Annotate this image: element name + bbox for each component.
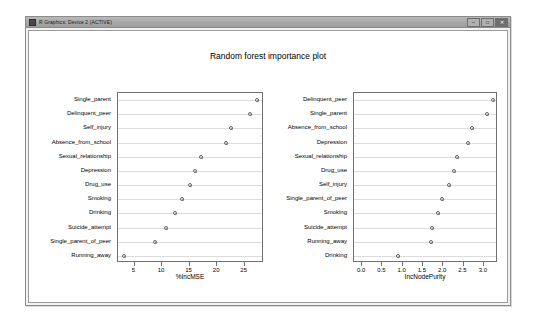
- y-axis-tick-label: Smoking: [88, 195, 111, 201]
- importance-plot-incmse: Single_parentDelinquent_peerSelf_injuryA…: [32, 78, 266, 298]
- plot-title: Random forest importance plot: [29, 51, 507, 61]
- y-axis-tick-label: Smoking: [324, 209, 347, 215]
- data-point: [491, 98, 495, 102]
- data-point: [173, 211, 177, 215]
- x-axis-tick: [402, 262, 403, 266]
- data-point: [199, 155, 203, 159]
- data-point: [466, 141, 470, 145]
- y-axis-tick-label: Running_away: [307, 238, 347, 244]
- data-point: [193, 169, 197, 173]
- window-controls: – □ ✕: [467, 18, 508, 27]
- y-axis-tick-label: Depression: [317, 139, 347, 145]
- window-titlebar[interactable]: R Graphics: Device 2 (ACTIVE) – □ ✕: [26, 17, 510, 28]
- data-point: [455, 155, 459, 159]
- x-axis-tick-label: 0.0: [357, 267, 365, 273]
- y-axis-tick-label: Single_parent: [74, 96, 111, 102]
- data-point: [153, 240, 157, 244]
- r-graphics-window: R Graphics: Device 2 (ACTIVE) – □ ✕ Rand…: [25, 16, 511, 306]
- y-axis-tick-label: Depression: [81, 167, 111, 173]
- x-axis-tick: [134, 262, 135, 266]
- y-axis-tick-label: Delinquent_peer: [67, 110, 111, 116]
- x-axis-tick: [244, 262, 245, 266]
- data-point: [224, 141, 228, 145]
- data-point: [255, 98, 259, 102]
- y-axis-labels-left: Single_parentDelinquent_peerSelf_injuryA…: [32, 92, 114, 262]
- x-axis-title-right: IncNodePurity: [405, 273, 446, 280]
- x-axis-tick: [361, 262, 362, 266]
- r-app-icon: [29, 19, 36, 26]
- y-axis-tick-label: Suicide_attempt: [68, 224, 111, 230]
- plot-area-left: [117, 92, 263, 262]
- importance-plot-incnodepurity: Delinquent_peerSingle_parentAbsence_from…: [267, 78, 505, 298]
- y-axis-tick-label: Absence_from_school: [52, 139, 111, 145]
- y-axis-tick-label: Single_parent_of_peer: [50, 238, 111, 244]
- x-axis-tick-label: 2.5: [458, 267, 466, 273]
- data-point: [229, 126, 233, 130]
- x-axis-tick-label: 10: [158, 267, 165, 273]
- x-axis-tick: [381, 262, 382, 266]
- data-point: [429, 240, 433, 244]
- minimize-button[interactable]: –: [467, 18, 480, 27]
- data-point: [436, 211, 440, 215]
- x-axis-tick: [189, 262, 190, 266]
- x-axis-tick: [483, 262, 484, 266]
- window-title: R Graphics: Device 2 (ACTIVE): [39, 17, 112, 28]
- data-point: [396, 254, 400, 258]
- x-axis-tick: [463, 262, 464, 266]
- y-axis-tick-label: Drug_use: [321, 167, 347, 173]
- x-axis-tick: [216, 262, 217, 266]
- y-axis-tick-label: Sexual_relationship: [59, 153, 111, 159]
- y-axis-tick-label: Drug_use: [85, 181, 111, 187]
- y-axis-tick-label: Absence_from_school: [288, 124, 347, 130]
- x-axis-tick-label: 3.0: [479, 267, 487, 273]
- x-axis-tick-label: 5: [132, 267, 135, 273]
- screen: R Graphics: Device 2 (ACTIVE) – □ ✕ Rand…: [0, 0, 534, 328]
- data-point: [248, 112, 252, 116]
- data-points-left: [118, 93, 262, 261]
- x-axis-tick: [442, 262, 443, 266]
- data-point: [180, 197, 184, 201]
- x-axis-title-left: %IncMSE: [176, 273, 205, 280]
- data-point: [430, 226, 434, 230]
- y-axis-tick-label: Sexual_relationship: [295, 153, 347, 159]
- y-axis-tick-label: Running_away: [71, 252, 111, 258]
- x-axis-tick-label: 20: [213, 267, 220, 273]
- plot-area-right: [353, 92, 497, 262]
- y-axis-tick-label: Self_injury: [83, 124, 111, 130]
- maximize-button[interactable]: □: [481, 18, 494, 27]
- data-point: [447, 183, 451, 187]
- x-axis-tick: [422, 262, 423, 266]
- x-axis-tick: [161, 262, 162, 266]
- data-point: [164, 226, 168, 230]
- x-axis-tick-label: 25: [240, 267, 247, 273]
- y-axis-tick-label: Self_injury: [319, 181, 347, 187]
- graphics-canvas: Random forest importance plot Single_par…: [28, 30, 508, 303]
- y-axis-tick-label: Drinking: [89, 209, 111, 215]
- data-points-right: [354, 93, 496, 261]
- data-point: [188, 183, 192, 187]
- data-point: [440, 197, 444, 201]
- data-point: [485, 112, 489, 116]
- data-point: [452, 169, 456, 173]
- y-axis-tick-label: Delinquent_peer: [303, 96, 347, 102]
- y-axis-tick-label: Drinking: [325, 252, 347, 258]
- y-axis-tick-label: Single_parent: [310, 110, 347, 116]
- data-point: [470, 126, 474, 130]
- x-axis-tick-label: 0.5: [377, 267, 385, 273]
- y-axis-labels-right: Delinquent_peerSingle_parentAbsence_from…: [267, 92, 350, 262]
- close-button[interactable]: ✕: [495, 18, 508, 27]
- y-axis-tick-label: Suicide_attempt: [304, 224, 347, 230]
- data-point: [122, 254, 126, 258]
- y-axis-tick-label: Single_parent_of_peer: [286, 195, 347, 201]
